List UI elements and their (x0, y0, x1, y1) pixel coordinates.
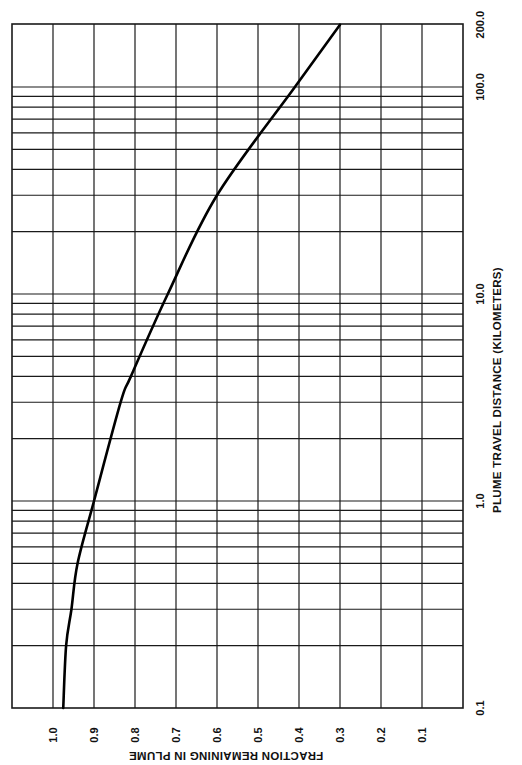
distance-tick-label: 0.1 (474, 700, 486, 715)
distance-tick-labels: 0.11.010.0100.0200.0 (474, 11, 486, 716)
grid-lines (12, 24, 463, 708)
distance-tick-label: 200.0 (474, 11, 486, 39)
distance-axis-label: PLUME TRAVEL DISTANCE (KILOMETERS) (491, 267, 503, 513)
distance-tick-label: 1.0 (474, 493, 486, 508)
fraction-tick-label: 0.8 (129, 727, 141, 742)
distance-tick-label: 100.0 (474, 73, 486, 101)
fraction-tick-label: 0.5 (252, 727, 264, 742)
fraction-tick-label: 0.3 (334, 727, 346, 742)
fraction-tick-label: 0.4 (293, 726, 305, 742)
distance-tick-label: 10.0 (474, 283, 486, 304)
fraction-axis-label: FRACTION REMAINING IN PLUME (129, 750, 324, 762)
fraction-tick-label: 0.7 (170, 727, 182, 742)
fraction-tick-labels: 1.00.90.80.70.60.50.40.30.20.1 (47, 726, 428, 742)
plot-frame (12, 24, 463, 708)
fraction-tick-label: 1.0 (47, 727, 59, 742)
chart: 1.00.90.80.70.60.50.40.30.20.1 0.11.010.… (0, 0, 522, 765)
fraction-tick-label: 0.1 (416, 727, 428, 742)
fraction-tick-label: 0.2 (375, 727, 387, 742)
fraction-tick-label: 0.9 (88, 727, 100, 742)
fraction-tick-label: 0.6 (211, 727, 223, 742)
